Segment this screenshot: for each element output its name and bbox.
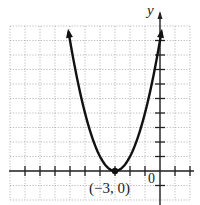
vertex-label: (−3, 0) <box>89 180 130 197</box>
y-axis-label: y <box>147 2 154 19</box>
axes <box>9 11 194 205</box>
parabola-graph <box>0 0 200 205</box>
origin-label: 0 <box>148 171 155 187</box>
vertex-point <box>112 168 118 174</box>
curve-arrows <box>66 29 164 38</box>
